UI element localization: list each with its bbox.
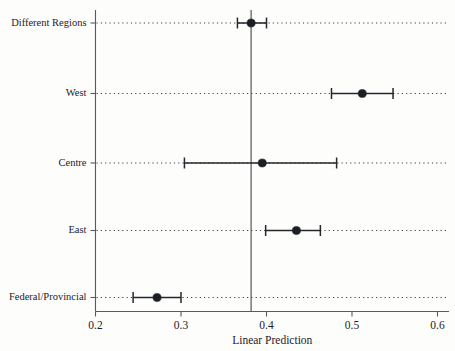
- estimate-point-marker: [247, 19, 255, 27]
- estimate-point-marker: [292, 226, 300, 234]
- y-tick-label-0: Different Regions: [11, 17, 86, 28]
- y-tick-label-2: Centre: [59, 157, 87, 168]
- forest-plot-figure: Different RegionsWestCentreEastFederal/P…: [0, 0, 455, 351]
- x-tick-label-0: 0.2: [88, 319, 103, 331]
- y-tick-label-3: East: [68, 224, 86, 235]
- x-tick-label-1: 0.3: [174, 319, 189, 331]
- x-tick-label-4: 0.6: [430, 319, 445, 331]
- x-axis-title: Linear Prediction: [232, 334, 312, 346]
- y-tick-label-1: West: [66, 87, 87, 98]
- estimate-point-marker: [358, 89, 366, 97]
- x-axis-labels: 0.20.30.40.50.6: [88, 319, 445, 331]
- y-tick-label-4: Federal/Provincial: [9, 291, 87, 302]
- plot-canvas: Different RegionsWestCentreEastFederal/P…: [0, 0, 455, 351]
- estimate-point-marker: [258, 159, 266, 167]
- x-tick-label-2: 0.4: [259, 319, 274, 331]
- y-axis-labels: Different RegionsWestCentreEastFederal/P…: [9, 17, 87, 303]
- grid-lines: [97, 23, 450, 298]
- estimate-point-marker: [153, 293, 161, 301]
- x-tick-label-3: 0.5: [345, 319, 360, 331]
